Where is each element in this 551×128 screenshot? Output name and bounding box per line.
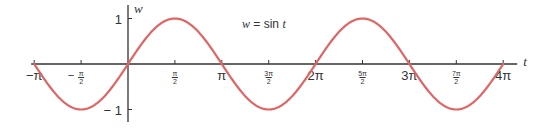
x-tick-denominator: 2 [79, 78, 83, 85]
x-tick-label: 2π [307, 68, 323, 83]
x-tick-label: 4π [495, 68, 511, 83]
y-axis-label: w [134, 1, 143, 16]
annotation-var: w [242, 17, 250, 31]
x-tick-numerator: 7π [452, 70, 461, 77]
function-annotation: w = sin t [242, 17, 286, 31]
x-tick-denominator: 2 [454, 78, 458, 85]
sine-chart: t w w = sin t −π−π2π2π3π22π5π23π7π24π 1−… [0, 0, 551, 128]
x-tick-denominator: 2 [361, 78, 365, 85]
x-tick-numerator: 3π [264, 70, 273, 77]
x-tick-numerator: 5π [358, 70, 367, 77]
x-tick-label-fraction: 5π2 [358, 70, 367, 85]
annotation-eq: = sin [250, 17, 282, 31]
x-tick-label-fraction: −π2 [68, 69, 84, 85]
x-axis-label: t [523, 54, 527, 69]
x-tick-label: 3π [401, 68, 417, 83]
x-tick-denominator: 2 [173, 78, 177, 85]
x-tick-numerator: π [79, 70, 84, 77]
y-tick-label: − 1 [104, 103, 122, 118]
x-tick-denominator: 2 [267, 78, 271, 85]
x-tick-sign: − [68, 69, 74, 81]
x-tick-label-fraction: 7π2 [452, 70, 461, 85]
x-tick-label: −π [26, 68, 43, 83]
x-tick-label-fraction: π2 [172, 70, 178, 85]
annotation-arg: t [282, 17, 286, 31]
x-tick-numerator: π [172, 70, 177, 77]
x-tick-label-fraction: 3π2 [264, 70, 273, 85]
y-tick-label: 1 [115, 12, 122, 27]
